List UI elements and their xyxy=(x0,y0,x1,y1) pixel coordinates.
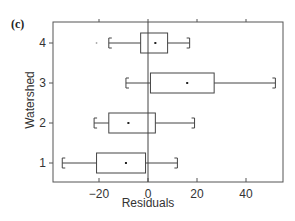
box-watershed-4 xyxy=(96,33,190,53)
y-tick-label: 1 xyxy=(39,156,46,170)
y-tick-label: 2 xyxy=(39,116,46,130)
y-tick-label: 3 xyxy=(39,76,46,90)
y-axis-ticks: 1234 xyxy=(39,36,53,170)
y-tick-label: 4 xyxy=(39,36,46,50)
x-tick-label: −20 xyxy=(89,187,110,201)
x-tick-label: 0 xyxy=(145,187,152,201)
box-watershed-1 xyxy=(62,153,177,173)
box-plot: −2002040 1234 xyxy=(0,0,295,221)
x-axis-ticks: −2002040 xyxy=(89,19,253,201)
outlier-point xyxy=(96,42,98,44)
x-tick-label: 20 xyxy=(190,187,204,201)
boxes xyxy=(62,33,275,173)
x-tick-label: 40 xyxy=(239,187,253,201)
box-watershed-2 xyxy=(94,113,194,133)
